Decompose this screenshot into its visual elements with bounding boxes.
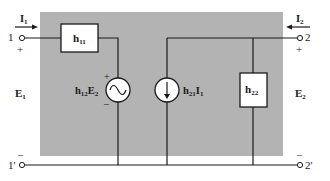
- port1-plus: +: [17, 43, 23, 55]
- E2-label: E2: [295, 87, 306, 101]
- terminal-1: [19, 35, 24, 40]
- terminal-2: [297, 35, 302, 40]
- source-plus: +: [104, 71, 110, 82]
- circuit-diagram: h11 + – h12E2 h21I1 h22 I1 1 + E1 – 1' I…: [0, 0, 330, 181]
- terminal-1-prime-label: 1': [8, 159, 16, 171]
- E1-label: E1: [15, 87, 26, 101]
- port2-plus: +: [296, 43, 302, 55]
- terminal-1-label: 1: [8, 31, 14, 43]
- port2-minus: –: [296, 149, 303, 160]
- I1-arrow-head: [32, 25, 38, 30]
- terminal-1-prime: [19, 162, 24, 167]
- terminal-2-prime: [297, 162, 302, 167]
- I1-label: I1: [20, 13, 28, 26]
- terminal-2-prime-label: 2': [305, 159, 313, 171]
- port1-minus: –: [17, 149, 24, 160]
- I2-label: I2: [296, 13, 304, 26]
- terminal-2-label: 2: [305, 31, 311, 43]
- I2-arrow-head: [286, 25, 292, 30]
- source-minus: –: [103, 98, 110, 109]
